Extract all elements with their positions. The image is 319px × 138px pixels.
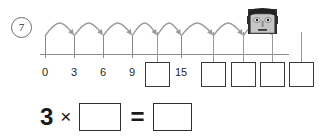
tick-label-9: 9 xyxy=(120,66,144,79)
tick-mark-24 xyxy=(272,32,273,62)
tick-mark-0 xyxy=(45,36,46,58)
tick-mark-21 xyxy=(243,32,244,62)
tick-label-6: 6 xyxy=(91,66,115,79)
tick-mark-27 xyxy=(301,32,302,62)
worksheet-problem: 7 036915 3 × = xyxy=(0,0,319,138)
equation-operand-box[interactable] xyxy=(79,103,121,131)
multiplication-sign: × xyxy=(60,103,71,131)
tick-label-3: 3 xyxy=(62,66,86,79)
number-line-answer-box-18[interactable] xyxy=(201,62,226,87)
equation-factor: 3 xyxy=(40,103,53,131)
hop-arc xyxy=(213,23,242,36)
equals-sign: = xyxy=(130,103,144,131)
equation-result-box[interactable] xyxy=(153,103,192,131)
tick-label-0: 0 xyxy=(33,66,57,79)
tick-mark-3 xyxy=(74,36,75,58)
number-line-answer-box-27[interactable] xyxy=(289,62,314,87)
number-line-axis xyxy=(40,54,289,55)
hop-arc xyxy=(132,23,156,36)
tick-mark-15 xyxy=(181,36,182,58)
tick-label-15: 15 xyxy=(169,66,193,79)
tick-mark-6 xyxy=(103,36,104,58)
number-line-answer-box-24[interactable] xyxy=(260,62,285,87)
tick-mark-12 xyxy=(157,32,158,62)
equation-row: 3 × = xyxy=(40,100,192,134)
hop-arc xyxy=(157,23,180,36)
hop-arc xyxy=(181,23,212,36)
hop-arcs xyxy=(45,23,271,36)
tick-mark-18 xyxy=(213,32,214,62)
cartoon-head-icon xyxy=(246,6,279,36)
tick-mark-9 xyxy=(132,36,133,58)
hop-arc xyxy=(103,23,131,36)
question-number: 7 xyxy=(11,17,32,38)
hop-arc xyxy=(74,23,102,36)
number-line-answer-box-12[interactable] xyxy=(145,62,170,87)
hop-arc xyxy=(45,23,73,36)
number-line-answer-box-21[interactable] xyxy=(231,62,256,87)
